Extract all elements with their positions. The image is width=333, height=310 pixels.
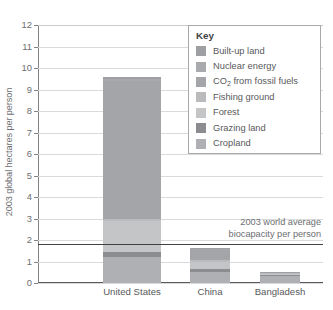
bar-segment-built-up-land (190, 248, 230, 250)
y-tick-mark (34, 111, 38, 112)
bar-segment-forest (103, 221, 161, 252)
legend-swatch-icon (196, 46, 206, 56)
bar-segment-grazing-land (103, 252, 161, 257)
y-tick-label: 6 (27, 149, 32, 158)
y-tick-mark (34, 133, 38, 134)
legend-swatch-icon (196, 77, 206, 87)
bar-segment-co2-from-fossil-fuels (103, 81, 161, 219)
y-tick-mark (34, 47, 38, 48)
legend-item-label: Nuclear energy (213, 61, 276, 72)
y-tick-mark (34, 197, 38, 198)
bar-segment-nuclear-energy (103, 79, 161, 81)
legend-items: Built-up landNuclear energyCO2 from foss… (196, 44, 320, 152)
y-tick-mark (34, 262, 38, 263)
benchmark-line (38, 244, 323, 245)
legend-item-label: Forest (213, 107, 239, 118)
bar-segment-co2-from-fossil-fuels (190, 250, 230, 261)
legend-swatch-icon (196, 62, 206, 72)
bar-segment-cropland (103, 257, 161, 283)
bar-segment-forest (190, 262, 230, 270)
legend-item-co2-from-fossil-fuels: CO2 from fossil fuels (196, 74, 320, 89)
bar-segment-cropland (260, 275, 300, 283)
benchmark-label-line1: 2003 world average (229, 217, 321, 229)
bar-bangladesh (260, 272, 300, 283)
legend-swatch-icon (196, 123, 206, 133)
y-tick-label: 8 (27, 106, 32, 115)
y-tick-mark (34, 176, 38, 177)
legend-box: Key Built-up landNuclear energyCO2 from … (188, 25, 321, 154)
legend-swatch-icon (196, 139, 206, 149)
y-tick-mark (34, 283, 38, 284)
y-tick-mark (34, 154, 38, 155)
x-axis-label-china: China (197, 287, 222, 297)
gridline (38, 197, 323, 198)
benchmark-label-line2: biocapacity per person (229, 229, 321, 241)
benchmark-label: 2003 world averagebiocapacity per person (229, 217, 321, 240)
y-tick-mark (34, 25, 38, 26)
bar-segment-built-up-land (103, 77, 161, 79)
bar-united-states (103, 77, 161, 283)
y-tick-label: 10 (22, 63, 32, 72)
gridline (38, 262, 323, 263)
y-tick-label: 1 (27, 257, 32, 266)
legend-item-cropland: Cropland (196, 136, 320, 151)
y-tick-mark (34, 240, 38, 241)
legend-swatch-icon (196, 108, 206, 118)
legend-title: Key (196, 30, 320, 41)
gridline (38, 283, 323, 284)
y-tick-label: 11 (22, 42, 32, 51)
legend-item-fishing-ground: Fishing ground (196, 90, 320, 105)
x-axis-label-united-states: United States (103, 287, 161, 297)
y-tick-mark (34, 90, 38, 91)
gridline (38, 176, 323, 177)
bar-segment-fishing-ground (103, 219, 161, 221)
y-tick-label: 3 (27, 214, 32, 223)
bar-segment-cropland (190, 272, 230, 283)
legend-item-label: Built-up land (213, 46, 265, 57)
legend-item-nuclear-energy: Nuclear energy (196, 59, 320, 74)
legend-item-label: CO2 from fossil fuels (213, 76, 298, 87)
legend-item-grazing-land: Grazing land (196, 120, 320, 135)
y-axis-title: 2003 global hectares per person (2, 32, 16, 272)
y-tick-label: 7 (27, 128, 32, 137)
footprint-bar-chart: 2003 global hectares per person 01234567… (0, 0, 333, 310)
y-tick-label: 2 (27, 235, 32, 244)
bar-segment-forest (260, 273, 300, 274)
bar-segment-fishing-ground (190, 260, 230, 261)
legend-item-forest: Forest (196, 105, 320, 120)
bar-segment-grazing-land (190, 269, 230, 272)
legend-item-label: Fishing ground (213, 92, 275, 103)
legend-item-label: Grazing land (213, 123, 266, 134)
legend-swatch-icon (196, 92, 206, 102)
y-tick-mark (34, 219, 38, 220)
legend-item-label: Cropland (213, 138, 251, 149)
y-tick-label: 9 (27, 85, 32, 94)
legend-item-built-up-land: Built-up land (196, 44, 320, 59)
bar-china (190, 248, 230, 283)
y-tick-label: 12 (22, 20, 32, 29)
gridline (38, 154, 323, 155)
y-tick-label: 0 (27, 278, 32, 287)
bar-segment-grazing-land (260, 275, 300, 276)
y-tick-label: 5 (27, 171, 32, 180)
y-tick-mark (34, 68, 38, 69)
y-tick-label: 4 (27, 192, 32, 201)
x-axis-label-bangladesh: Bangladesh (255, 287, 306, 297)
